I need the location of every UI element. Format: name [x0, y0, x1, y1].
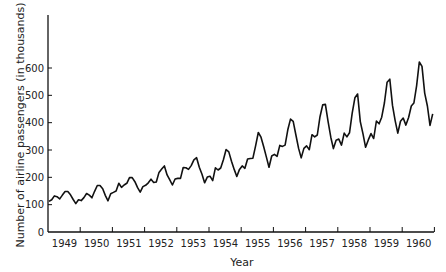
y-tick-label: 500	[25, 90, 44, 101]
x-tick-label: 1960	[406, 238, 431, 249]
line-chart: 0100200300400500600194919501951195219531…	[0, 0, 446, 272]
x-tick-label: 1955	[245, 238, 270, 249]
x-tick-label: 1951	[116, 238, 141, 249]
y-axis-title: Number of airline passengers (in thousan…	[14, 2, 27, 247]
x-tick-label: 1956	[277, 238, 302, 249]
y-tick-label: 600	[25, 63, 44, 74]
y-tick-label: 100	[25, 199, 44, 210]
y-tick-label: 0	[38, 227, 44, 238]
y-tick-label: 400	[25, 117, 44, 128]
x-tick-label: 1959	[374, 238, 399, 249]
x-tick-label: 1950	[84, 238, 109, 249]
axes: 0100200300400500600194919501951195219531…	[25, 15, 434, 249]
x-tick-label: 1957	[309, 238, 334, 249]
x-tick-label: 1949	[52, 238, 77, 249]
x-tick-label: 1958	[342, 238, 367, 249]
x-tick-label: 1954	[213, 238, 238, 249]
x-tick-label: 1953	[181, 238, 206, 249]
passengers-line	[49, 62, 433, 204]
y-tick-label: 300	[25, 145, 44, 156]
x-tick-label: 1952	[148, 238, 173, 249]
x-axis-title: Year	[229, 256, 254, 269]
y-tick-label: 200	[25, 172, 44, 183]
